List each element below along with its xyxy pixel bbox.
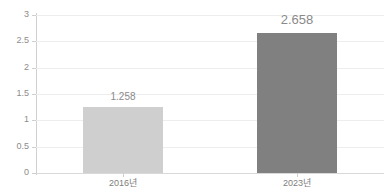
bar-2023[interactable] bbox=[257, 33, 337, 173]
x-axis-category-label-2016: 2016년 bbox=[83, 178, 163, 188]
bar-chart: 3 2.5 2 1.5 1 0.5 0 1.258 2.658 2016년 20… bbox=[0, 0, 387, 192]
x-tick-mark bbox=[123, 173, 124, 177]
bar-value-label: 1.258 bbox=[83, 91, 163, 103]
y-tick-label: 2.5 bbox=[16, 36, 29, 45]
x-tick-mark bbox=[297, 173, 298, 177]
bar-value-label: 2.658 bbox=[257, 14, 337, 26]
x-axis-baseline bbox=[36, 173, 384, 174]
y-tick-label: 1.5 bbox=[16, 89, 29, 98]
bar-2016[interactable] bbox=[83, 107, 163, 173]
y-tick-label: 0.5 bbox=[16, 142, 29, 151]
y-tick-label: 0 bbox=[24, 168, 29, 177]
y-axis-tick-labels: 3 2.5 2 1.5 1 0.5 0 bbox=[0, 0, 29, 192]
y-tick-label: 1 bbox=[24, 115, 29, 124]
y-tick-label: 2 bbox=[24, 63, 29, 72]
x-axis-category-label-2023: 2023년 bbox=[257, 178, 337, 188]
y-tick-label: 3 bbox=[24, 10, 29, 19]
